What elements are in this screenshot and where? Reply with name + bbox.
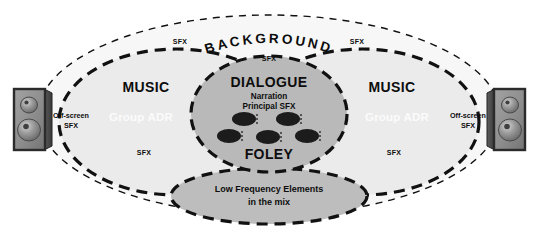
music-left-label: MUSIC	[122, 79, 169, 95]
speaker-right-icon	[487, 89, 525, 150]
music-right-group-adr: Group ADR	[365, 111, 429, 123]
foley-label: FOLEY	[245, 146, 294, 162]
music-left-group-adr: Group ADR	[109, 111, 173, 123]
lfe-zone-outline	[171, 168, 367, 224]
music-right-offscreen-line2: SFX	[461, 121, 475, 130]
music-right-offscreen-line1: Off-screen	[450, 111, 486, 120]
sound-mix-diagram: BACKGROUND SFX SFX SFX MUSIC Group ADR S…	[0, 0, 539, 230]
diagram-canvas: BACKGROUND SFX SFX SFX MUSIC Group ADR S…	[0, 0, 539, 230]
background-sfx-center: SFX	[262, 55, 277, 62]
music-right-label: MUSIC	[368, 79, 415, 95]
speaker-left-icon	[14, 89, 52, 150]
music-left-offscreen-line1: Off-screen	[53, 111, 89, 120]
dialogue-narration-label: Narration	[251, 92, 287, 101]
background-sfx-left: SFX	[173, 38, 188, 45]
lfe-label-line2: in the mix	[248, 197, 290, 207]
lfe-label-line1: Low Frequency Elements	[215, 184, 324, 194]
dialogue-label: DIALOGUE	[230, 74, 307, 90]
music-left-offscreen-line2: SFX	[64, 121, 78, 130]
music-right-sfx: SFX	[387, 149, 402, 156]
background-sfx-right: SFX	[350, 38, 365, 45]
lfe-zone	[171, 168, 367, 224]
music-left-sfx: SFX	[137, 149, 152, 156]
dialogue-principal-sfx-label: Principal SFX	[243, 102, 296, 111]
